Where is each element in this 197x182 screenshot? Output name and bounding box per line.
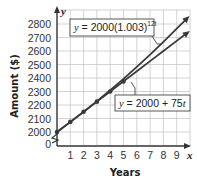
x-tick-label: 7 bbox=[147, 149, 153, 161]
y-tick-label: 2600 bbox=[28, 45, 52, 57]
y-tick-label: 2300 bbox=[28, 86, 52, 98]
x-tick-label: 9 bbox=[174, 149, 180, 161]
y-tick-label: 0 bbox=[45, 138, 51, 150]
y-tick-label: 2100 bbox=[28, 113, 52, 125]
data-point bbox=[68, 120, 73, 125]
y-axis-label: Amount ($) bbox=[9, 54, 20, 118]
x-tick-label: 6 bbox=[134, 149, 140, 161]
y-tick-label: 2800 bbox=[28, 18, 52, 30]
line-chart: y x 020002100220023002400250026002700280… bbox=[0, 0, 197, 182]
data-point bbox=[121, 79, 126, 84]
data-point bbox=[95, 99, 100, 104]
x-axis-variable: x bbox=[186, 149, 193, 161]
data-point bbox=[108, 89, 113, 94]
x-tick-label: 3 bbox=[94, 149, 100, 161]
exponential-equation-label: y = 2000(1.003)12t bbox=[73, 20, 156, 33]
y-tick-label: 2700 bbox=[28, 32, 52, 44]
y-axis-arrow-icon bbox=[54, 6, 60, 13]
y-axis-variable: y bbox=[59, 5, 66, 17]
linear-equation-label: y = 2000 + 75t bbox=[118, 97, 187, 109]
x-tick-label: 5 bbox=[121, 149, 127, 161]
y-tick-label: 2400 bbox=[28, 72, 52, 84]
linear-equation-callout: y = 2000 + 75t bbox=[115, 82, 190, 111]
y-tick-labels: 0200021002200230024002500260027002800 bbox=[28, 18, 52, 150]
data-point bbox=[81, 109, 86, 114]
y-tick-label: 2000 bbox=[28, 126, 52, 138]
x-tick-label: 2 bbox=[81, 149, 87, 161]
x-axis-label: Years bbox=[109, 167, 141, 178]
y-tick-label: 2500 bbox=[28, 59, 52, 71]
y-tick-label: 2200 bbox=[28, 99, 52, 111]
x-tick-label: 8 bbox=[160, 149, 166, 161]
x-tick-label: 1 bbox=[67, 149, 73, 161]
x-tick-labels: 123456789 bbox=[67, 149, 179, 161]
x-tick-label: 4 bbox=[107, 149, 113, 161]
